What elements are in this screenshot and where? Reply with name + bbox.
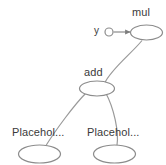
node-placeholder-1[interactable] — [19, 145, 61, 163]
node-mul[interactable] — [131, 25, 163, 40]
node-label-placeholder-1: Placehol... — [12, 126, 64, 138]
computation-graph: mul y add Placehol... Placehol... — [0, 0, 166, 165]
edge-add-to-mul — [105, 41, 143, 84]
graph-nodes — [19, 25, 163, 163]
node-add[interactable] — [80, 81, 115, 96]
graph-svg — [0, 0, 166, 165]
node-placeholder-2[interactable] — [94, 145, 136, 163]
node-label-add: add — [84, 66, 103, 78]
node-label-placeholder-2: Placehol... — [87, 126, 139, 138]
node-label-mul: mul — [132, 6, 150, 18]
node-y[interactable] — [105, 28, 113, 36]
node-label-y: y — [94, 25, 99, 37]
